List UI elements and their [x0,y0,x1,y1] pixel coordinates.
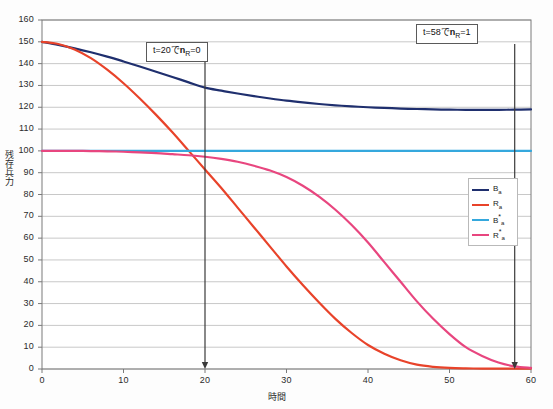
y-axis-tick-label: 10 [8,341,34,351]
y-axis-tick-label: 100 [8,145,34,155]
x-axis-tick-label: 60 [516,375,546,385]
y-axis-tick-label: 70 [8,210,34,220]
chart-container: 残存兵力 時間 t=20でnR=0 t=58でnR=1 BaRaB*aR*a 0… [0,0,553,409]
x-axis-tick-label: 0 [27,375,57,385]
x-axis-tick-label: 10 [109,375,139,385]
y-axis-tick-label: 40 [8,276,34,286]
annotation-text-2: t=58でnR=1 [423,27,471,37]
chart-legend: BaRaB*aR*a [468,178,518,246]
y-axis-tick-label: 50 [8,254,34,264]
y-axis-tick-label: 90 [8,167,34,177]
legend-color-swatch [472,204,489,206]
legend-item-label: R*a [493,228,505,241]
legend-item-label: Ba [493,184,502,195]
y-axis-tick-label: 120 [8,101,34,111]
legend-item: R*a [472,227,515,242]
annotation-text-1: t=20でnR=0 [153,45,201,55]
y-axis-tick-label: 30 [8,298,34,308]
y-axis-tick-label: 110 [8,123,34,133]
x-axis-title: 時間 [0,390,553,403]
legend-color-swatch [472,219,489,221]
legend-item: Ba [472,182,515,197]
legend-item-label: Ra [493,199,502,210]
legend-color-swatch [472,234,489,236]
x-axis-tick-label: 50 [435,375,465,385]
y-axis-tick-label: 150 [8,36,34,46]
annotation-callout-nr-one: t=58でnR=1 [416,24,478,44]
legend-item-label: B*a [493,213,504,226]
x-axis-tick-label: 30 [272,375,302,385]
y-axis-tick-label: 130 [8,79,34,89]
y-axis-tick-label: 80 [8,189,34,199]
legend-item: Ra [472,197,515,212]
x-axis-tick-label: 20 [190,375,220,385]
annotation-callout-nr-zero: t=20でnR=0 [146,42,208,62]
y-axis-tick-label: 60 [8,232,34,242]
legend-item: B*a [472,212,515,227]
y-axis-tick-label: 0 [8,363,34,373]
x-axis-tick-label: 40 [353,375,383,385]
y-axis-tick-label: 160 [8,14,34,24]
legend-color-swatch [472,189,489,191]
y-axis-tick-label: 140 [8,58,34,68]
y-axis-tick-label: 20 [8,319,34,329]
